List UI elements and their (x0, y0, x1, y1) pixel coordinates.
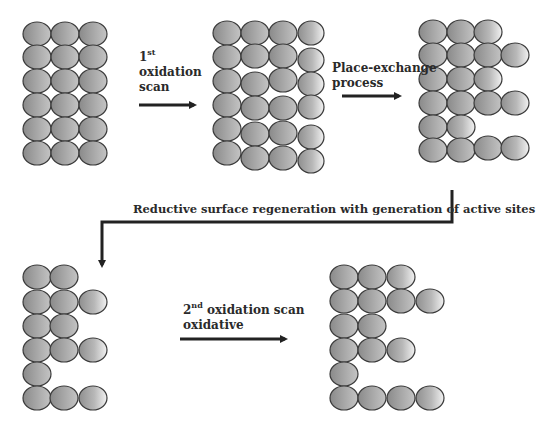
atom-grid-after-second-oxidation (330, 265, 444, 410)
atom-grid-regenerated (23, 265, 107, 410)
label-first-oxidation: 1st oxidation scan (139, 50, 202, 95)
atom-grid-after-first-oxidation (213, 21, 324, 173)
label-regeneration: Reductive surface regeneration with gene… (133, 202, 535, 217)
label-place-exchange: Place-exchange process (332, 61, 437, 91)
atom-grid-initial (23, 22, 107, 165)
atom-grid-after-place-exchange (419, 20, 529, 162)
label-second-oxidation: 2nd oxidation scan oxidative (183, 303, 304, 333)
